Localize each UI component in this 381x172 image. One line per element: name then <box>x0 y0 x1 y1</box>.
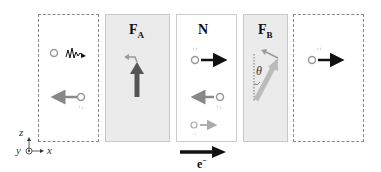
right-transmitted-electron-icon: ↑↑ <box>309 46 338 64</box>
svg-text:↑↑: ↑↑ <box>192 46 198 52</box>
n-minority-electron-icon: ↓↓ <box>191 122 212 136</box>
svg-text:↓↓: ↓↓ <box>192 131 197 136</box>
electron-label: e− <box>197 156 207 172</box>
svg-text:↑↑: ↑↑ <box>316 46 322 52</box>
axis-x-label: x <box>47 144 52 156</box>
fa-spin-torque-arrow-icon <box>124 54 137 62</box>
fb-spin-torque-arrow-icon <box>261 49 278 58</box>
wave-packet-icon <box>66 48 86 58</box>
axis-z-label: z <box>19 126 23 138</box>
incoming-electron-icon <box>51 50 58 57</box>
theta-angle-arc <box>254 82 260 85</box>
theta-label: θ <box>256 64 262 79</box>
coordinate-axes-icon <box>26 137 44 154</box>
axis-y-label: y <box>16 144 21 156</box>
fa-magnetization-arrow-icon <box>130 62 144 97</box>
svg-text:↑↓: ↑↓ <box>216 104 222 110</box>
reflected-electron-icon: ↑↓ <box>58 94 85 111</box>
n-reflected-electron-icon: ↑↓ <box>198 94 224 111</box>
diagram-graphics: ↑↓ ↑↑ ↑↓ ↓↓ ↑↑ <box>0 0 381 172</box>
n-transmitted-electron-icon: ↑↑ <box>192 46 221 64</box>
svg-text:↑↓: ↑↓ <box>78 104 84 110</box>
